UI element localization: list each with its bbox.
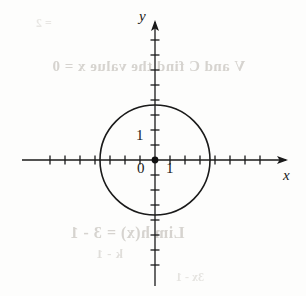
x-axis-tick-label-1: 1 — [166, 161, 174, 176]
origin-label: 0 — [137, 161, 145, 176]
coordinate-plane-figure: = 2 V and C find the value x = 0 Lim h(x… — [0, 0, 306, 296]
plot-canvas — [0, 0, 306, 296]
y-axis-tick-label-1: 1 — [136, 128, 144, 143]
y-axis-group — [151, 20, 160, 286]
origin-dot — [152, 157, 159, 164]
x-axis-label: x — [283, 168, 290, 183]
y-axis-label: y — [139, 9, 146, 24]
